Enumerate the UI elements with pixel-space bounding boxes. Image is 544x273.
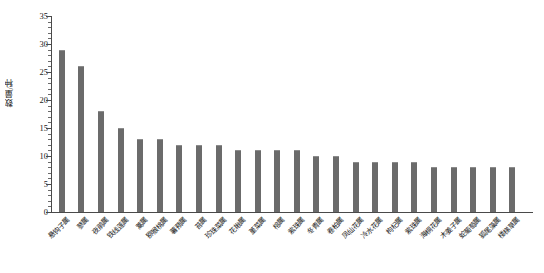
y-tick-minor [48,201,51,202]
y-tick-minor [48,38,51,39]
y-tick-minor [48,66,51,67]
bar [196,145,202,212]
bar [118,128,124,212]
bar [353,162,359,212]
y-tick-minor [48,173,51,174]
y-tick-minor [48,195,51,196]
y-tick-major [46,212,51,213]
y-tick-minor [48,117,51,118]
y-tick-minor [48,89,51,90]
bar [78,66,84,212]
x-tick-label: 紫珠属 [286,216,306,236]
y-tick-minor [48,167,51,168]
bar [255,150,261,212]
x-tick-label: 榕属 [272,216,287,231]
bar [313,156,319,212]
bar [470,167,476,212]
y-tick-minor [48,178,51,179]
y-tick-minor [48,106,51,107]
y-tick-major [46,16,51,17]
y-tick-minor [48,206,51,207]
bar [216,145,222,212]
bar [411,162,417,212]
x-tick-label: 薯蓣属 [169,216,189,236]
y-tick-minor [48,190,51,191]
y-tick-minor [48,145,51,146]
bar [372,162,378,212]
x-tick-label: 蓼属 [76,216,91,231]
y-axis-title: 数量/种 [6,78,20,107]
y-tick-minor [48,94,51,95]
bar [451,167,457,212]
y-tick-minor [48,139,51,140]
y-tick-minor [48,111,51,112]
bar [490,167,496,212]
x-tick-label: 堇菜属 [247,216,267,236]
x-tick-label: 苔属 [193,216,208,231]
bar [59,50,65,212]
y-tick-major [46,44,51,45]
y-tick-minor [48,83,51,84]
y-tick-minor [48,61,51,62]
bar [509,167,515,212]
y-tick-minor [48,33,51,34]
bar [431,167,437,212]
y-axis-tick-labels: 05101520253035 [22,0,48,273]
y-tick-major [46,184,51,185]
bar-chart: 数量/种 05101520253035 悬钩子属蓼属夜鹃属铁线莲属蒿属猕猴桃属薯… [0,0,544,273]
bar [176,145,182,212]
bar [98,111,104,212]
bar [157,139,163,212]
x-axis-tick-labels: 悬钩子属蓼属夜鹃属铁线莲属蒿属猕猴桃属薯蓣属苔属珍珠菜属花楸属堇菜属榕属紫珠属冬… [51,213,544,273]
x-tick-label: 花楸属 [228,216,248,236]
y-tick-major [46,72,51,73]
y-tick-minor [48,27,51,28]
y-tick-major [46,100,51,101]
y-tick-major [46,128,51,129]
bar [333,156,339,212]
y-tick-minor [48,150,51,151]
x-tick-label: 悬钩子属 [47,216,72,241]
plot-area [51,16,533,212]
y-tick-minor [48,50,51,51]
y-tick-minor [48,78,51,79]
y-tick-minor [48,122,51,123]
y-tick-minor [48,134,51,135]
bar [392,162,398,212]
x-tick-label: 蒿属 [135,216,150,231]
x-tick-label: 枸杞属 [384,216,404,236]
bar [137,139,143,212]
y-tick-major [46,156,51,157]
bar [294,150,300,212]
y-tick-minor [48,55,51,56]
bar [235,150,241,212]
y-tick-minor [48,162,51,163]
x-tick-label: 冬青属 [306,216,326,236]
bar [274,150,280,212]
y-tick-minor [48,22,51,23]
